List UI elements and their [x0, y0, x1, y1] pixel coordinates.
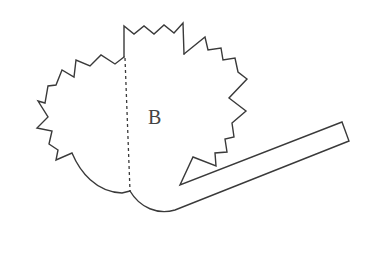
left-lobe-outline: [37, 55, 130, 193]
region-label-b: B: [148, 106, 161, 128]
right-lobe-outline: [130, 37, 349, 212]
fold-line-dashed: [125, 58, 130, 191]
top-zigzag-outline: [124, 23, 184, 57]
diagram-canvas: B: [0, 0, 367, 272]
